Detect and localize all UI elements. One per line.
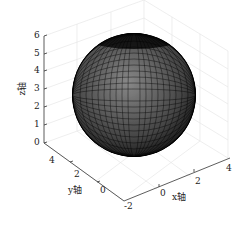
z-axis-label: z轴	[18, 82, 27, 96]
z-tick: 3	[34, 84, 40, 93]
z-tick: 5	[34, 49, 40, 58]
z-tick: 4	[34, 66, 40, 75]
z-tick: 2	[34, 102, 40, 111]
sphere	[72, 31, 196, 157]
y-tick: 4	[49, 156, 55, 165]
x-tick: 2	[195, 177, 201, 186]
x-tick: 0	[160, 189, 166, 198]
z-tick: 0	[34, 138, 40, 147]
z-tick: 1	[34, 120, 40, 129]
y-axis-label: y轴	[68, 186, 82, 195]
x-tick: 4	[226, 164, 232, 173]
y-tick: 2	[74, 170, 80, 179]
z-tick: 6	[34, 31, 40, 40]
x-axis-label: x轴	[172, 193, 186, 202]
y-tick: 0	[100, 186, 106, 195]
x-tick: -2	[124, 202, 133, 211]
